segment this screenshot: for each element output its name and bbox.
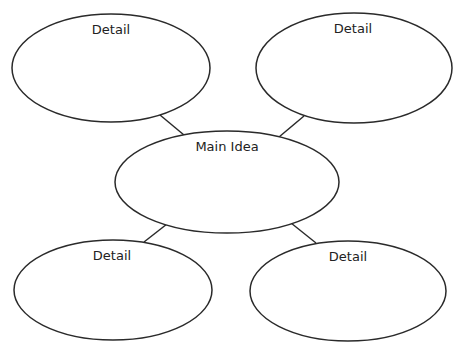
main-idea-label: Main Idea bbox=[195, 139, 258, 154]
connector-top-right bbox=[279, 116, 304, 137]
detail-label-bottom-right: Detail bbox=[329, 249, 367, 264]
connector-top-left bbox=[160, 115, 184, 135]
idea-web-diagram: Detail Detail Main Idea Detail Detail bbox=[0, 0, 465, 356]
connector-bottom-right bbox=[291, 223, 316, 243]
detail-label-bottom-left: Detail bbox=[93, 248, 131, 263]
detail-label-top-right: Detail bbox=[334, 21, 372, 36]
detail-label-top-left: Detail bbox=[92, 22, 130, 37]
connector-bottom-left bbox=[144, 224, 167, 242]
